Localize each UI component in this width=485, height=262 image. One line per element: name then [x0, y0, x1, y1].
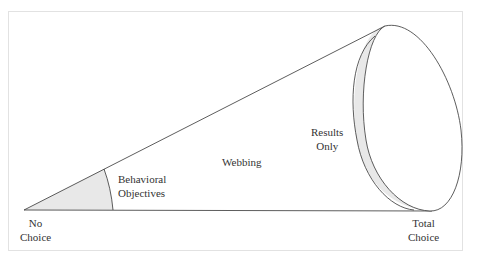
label-webbing-line1: Webbing [222, 155, 261, 169]
label-no-choice-line2: Choice [20, 230, 51, 244]
label-no-choice: No Choice [20, 216, 51, 244]
label-total-choice-line2: Choice [408, 230, 439, 244]
label-behavioral-line1: Behavioral [118, 172, 166, 186]
label-behavioral-objectives: Behavioral Objectives [118, 172, 166, 200]
behavioral-objectives-shade [24, 169, 113, 210]
cone-top-edge [24, 26, 385, 210]
label-results-line1: Results [311, 125, 343, 139]
label-total-choice-line1: Total [408, 216, 439, 230]
label-behavioral-line2: Objectives [118, 186, 166, 200]
label-results-line2: Only [311, 139, 343, 153]
label-results-only: Results Only [311, 125, 343, 153]
label-total-choice: Total Choice [408, 216, 439, 244]
label-no-choice-line1: No [20, 216, 51, 230]
label-webbing: Webbing [222, 155, 261, 169]
continuum-baseline [24, 210, 432, 211]
